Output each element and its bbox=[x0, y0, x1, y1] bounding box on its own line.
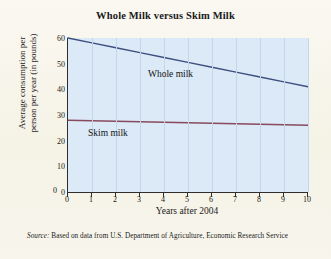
x-tick-mark bbox=[235, 193, 236, 197]
x-tick-mark bbox=[163, 193, 164, 197]
gridline-vertical bbox=[116, 38, 117, 192]
x-tick-mark bbox=[283, 193, 284, 197]
gridline-vertical bbox=[236, 38, 237, 192]
x-tick-mark bbox=[91, 193, 92, 197]
gridline-vertical bbox=[284, 38, 285, 192]
plot-frame bbox=[67, 38, 308, 193]
source-note: Source: Based on data from U.S. Departme… bbox=[27, 232, 317, 240]
series-label-whole-milk: Whole milk bbox=[148, 69, 193, 79]
series-label-skim-milk: Skim milk bbox=[88, 128, 128, 138]
y-tick-label: 50 bbox=[43, 59, 65, 68]
y-axis-title: Average consumption per person per year … bbox=[17, 3, 39, 163]
gridline-vertical bbox=[212, 38, 213, 192]
y-tick-label: 40 bbox=[43, 85, 65, 94]
gridline-vertical bbox=[260, 38, 261, 192]
y-tick-label: 10 bbox=[43, 162, 65, 171]
plot-area bbox=[68, 38, 308, 192]
y-tick-label: 60 bbox=[43, 34, 65, 43]
x-tick-mark bbox=[139, 193, 140, 197]
source-text: Based on data from U.S. Department of Ag… bbox=[51, 232, 288, 240]
y-axis-tick-labels: 0102030405060 bbox=[41, 38, 65, 192]
gridline-vertical bbox=[308, 38, 309, 192]
gridline-vertical bbox=[188, 38, 189, 192]
x-tick-mark bbox=[211, 193, 212, 197]
origin-label: 0 bbox=[53, 186, 57, 195]
x-axis-title: Years after 2004 bbox=[67, 206, 307, 216]
x-tick-mark bbox=[259, 193, 260, 197]
gridline-vertical bbox=[140, 38, 141, 192]
x-tick-mark bbox=[307, 193, 308, 197]
y-axis-title-line-1: Average consumption per bbox=[17, 3, 28, 163]
gridline-vertical bbox=[92, 38, 93, 192]
gridline-vertical bbox=[164, 38, 165, 192]
chart-title: Whole Milk versus Skim Milk bbox=[0, 10, 331, 21]
source-prefix: Source: bbox=[27, 232, 49, 240]
chart-figure: Whole Milk versus Skim Milk Average cons… bbox=[0, 0, 331, 259]
y-tick-label: 30 bbox=[43, 111, 65, 120]
y-tick-label: 20 bbox=[43, 136, 65, 145]
x-tick-mark bbox=[67, 193, 68, 197]
x-tick-mark bbox=[187, 193, 188, 197]
x-tick-mark bbox=[115, 193, 116, 197]
y-axis-title-line-2: person per year (in pounds) bbox=[28, 3, 39, 163]
